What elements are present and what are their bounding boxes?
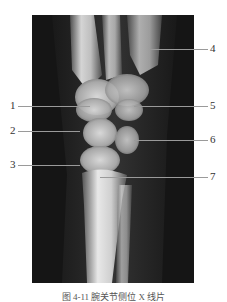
label-4: 4 bbox=[210, 43, 216, 54]
leader-line-6 bbox=[134, 140, 208, 141]
leader-line-3 bbox=[18, 165, 80, 166]
leader-line-5 bbox=[134, 106, 208, 107]
leader-line-2 bbox=[18, 131, 80, 132]
label-5: 5 bbox=[210, 100, 216, 111]
figure-caption: 图 4-11 腕关节侧位 X 线片 bbox=[0, 293, 227, 302]
label-3: 3 bbox=[10, 159, 16, 170]
leader-line-7 bbox=[100, 177, 208, 178]
leader-line-1 bbox=[18, 106, 90, 107]
label-2: 2 bbox=[10, 125, 16, 136]
xray-graphic bbox=[32, 15, 194, 283]
label-1: 1 bbox=[10, 100, 16, 111]
label-7: 7 bbox=[210, 171, 216, 182]
xray-image bbox=[32, 15, 194, 283]
label-6: 6 bbox=[210, 134, 216, 145]
leader-line-4 bbox=[150, 49, 208, 50]
